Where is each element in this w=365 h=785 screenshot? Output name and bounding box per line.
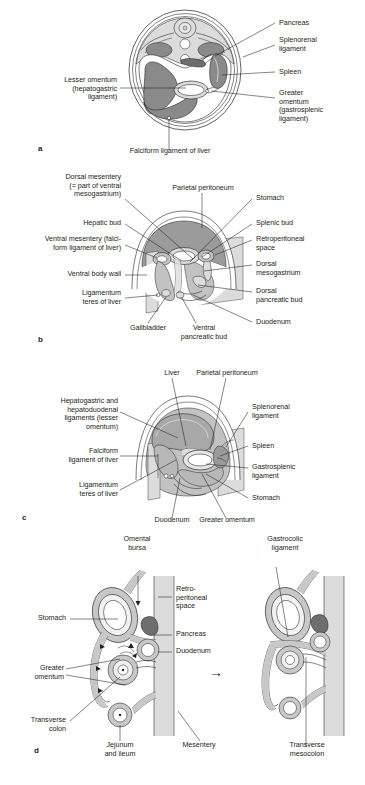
label-spleen: Spleen	[252, 442, 362, 451]
label-omental-bursa: Omental bursa	[102, 535, 172, 552]
label-splenorenal-ligament: Splenorenal ligament	[279, 36, 363, 53]
label-ventral-pancreatic-bud: Ventral pancreatic bud	[168, 324, 240, 341]
label-duodenum: Duodenum	[176, 647, 238, 656]
label-stomach: Stomach	[6, 614, 66, 623]
panel-d: → Omental bursa Gastrocolic ligament Sto…	[0, 525, 365, 785]
label-ventral-mesentery: Ventral mesentery (falci- form ligament …	[4, 235, 121, 252]
panel-key-d: d	[34, 746, 39, 755]
label-hepatogastric-hepatoduodenal: Hepatogastric and hepatoduodenal ligamen…	[6, 397, 118, 431]
label-mesentery: Mesentery	[166, 741, 232, 750]
label-ventral-body-wall: Ventral body wall	[14, 270, 121, 279]
label-falciform-ligament-of-liver: Falciform ligament of liver	[6, 447, 118, 464]
label-pancreas: Pancreas	[279, 19, 363, 28]
label-greater-omentum: Greater omentum	[188, 516, 266, 525]
label-gastrosplenic-ligament: Gastrosplenic ligament	[252, 463, 362, 480]
label-splenic-bud: Splenic bud	[256, 219, 362, 228]
panel-a: Lesser omentum (hepatogastric ligament) …	[0, 0, 365, 165]
label-parietal-peritoneum: Parietal peritoneum	[147, 184, 259, 193]
panel-c: Hepatogastric and hepatoduodenal ligamen…	[0, 350, 365, 525]
label-stomach: Stomach	[252, 494, 362, 503]
label-dorsal-mesogastrium: Dorsal mesogastrium	[256, 260, 362, 277]
label-spleen: Spleen	[279, 68, 363, 77]
label-splenorenal-ligament: Splenorenal ligament	[252, 403, 362, 420]
label-ligamentum-teres-of-liver: Ligamentum teres of liver	[6, 481, 118, 498]
label-dorsal-mesentery: Dorsal mesentery (= part of ventral meso…	[14, 173, 121, 199]
label-retroperitoneal-space: Retro- peritoneal space	[176, 585, 238, 611]
label-transverse-colon: Transverse colon	[2, 716, 66, 733]
label-greater-omentum: Greater omentum	[4, 664, 64, 681]
label-pancreas: Pancreas	[176, 630, 238, 639]
label-duodenum: Duodenum	[256, 318, 362, 327]
panel-key-c: c	[22, 513, 26, 522]
label-gastrocolic-ligament: Gastrocolic ligament	[246, 535, 324, 552]
label-falciform-ligament-of-liver: Falciform ligament of liver	[105, 147, 235, 156]
label-retroperitoneal-space: Retroperitoneal space	[256, 235, 362, 252]
label-ligamentum-teres-of-liver: Ligamentum teres of liver	[14, 289, 121, 306]
label-transverse-mesocolon: Transverse mesocolon	[272, 741, 342, 758]
panel-key-a: a	[38, 144, 42, 153]
label-dorsal-pancreatic-bud: Dorsal pancreatic bud	[256, 287, 362, 304]
label-hepatic-bud: Hepatic bud	[14, 219, 121, 228]
label-stomach: Stomach	[256, 194, 362, 203]
panel-b: Dorsal mesentery (= part of ventral meso…	[0, 165, 365, 350]
label-lesser-omentum: Lesser omentum (hepatogastric ligament)	[4, 76, 117, 102]
label-parietal-peritoneum: Parietal peritoneum	[186, 369, 268, 378]
label-jejunum-and-ileum: Jejunum and ileum	[88, 741, 152, 758]
panel-key-b: b	[38, 335, 43, 344]
label-greater-omentum: Greater omentum (gastrosplenic ligament)	[279, 89, 363, 123]
